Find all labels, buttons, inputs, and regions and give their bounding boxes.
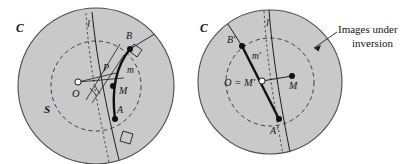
- left-label-point-m: M: [118, 85, 128, 96]
- right-label-point-a-prime: A': [269, 125, 279, 136]
- left-point-a: [112, 116, 118, 122]
- left-outer-disk: [18, 8, 174, 164]
- left-label-outer-circle: C: [16, 22, 24, 34]
- right-label-center: O = M': [224, 77, 256, 88]
- left-panel: C S l O P B A M m: [16, 8, 174, 164]
- right-panel: C l O = M' B' A' M m': [198, 10, 342, 162]
- left-label-point-a: A: [116, 104, 124, 115]
- annotation-line-1: Images under: [338, 23, 398, 35]
- left-label-line-l: l: [87, 18, 90, 29]
- right-label-point-m: M: [288, 80, 298, 91]
- left-point-m: [110, 83, 116, 89]
- right-point-o-equals-m-prime: [259, 78, 265, 84]
- left-label-region-s: S: [44, 103, 50, 115]
- figure-container: C S l O P B A M m: [0, 0, 411, 164]
- right-label-point-b-prime: B': [227, 34, 236, 45]
- left-point-o: [75, 79, 81, 85]
- right-point-m: [289, 73, 295, 79]
- inversion-diagram: C S l O P B A M m: [0, 0, 411, 164]
- right-point-a-prime: [276, 116, 282, 122]
- right-label-line-l: l: [266, 17, 269, 28]
- right-label-segment-m-prime: m': [252, 51, 262, 61]
- right-point-b-prime: [239, 43, 245, 49]
- left-label-center-o: O: [72, 88, 80, 99]
- annotation-line-2: inversion: [352, 37, 393, 49]
- left-label-point-p: P: [102, 62, 109, 73]
- left-label-arc-m: m: [127, 65, 134, 75]
- left-label-point-b: B: [126, 30, 132, 41]
- left-point-b: [127, 46, 133, 52]
- right-label-outer-circle: C: [200, 22, 208, 34]
